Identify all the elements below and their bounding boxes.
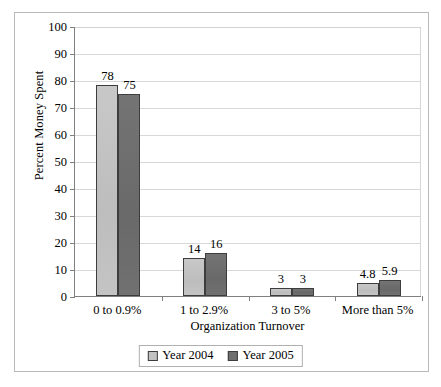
bar-value-label: 14 [188,242,201,257]
bar-group: 33 [249,27,336,296]
bar[interactable]: 5.9 [379,280,401,296]
bar[interactable]: 4.8 [357,283,379,296]
legend-item[interactable]: Year 2005 [228,348,294,363]
bar[interactable]: 14 [183,258,205,296]
bar-group-bars: 7875 [75,27,162,296]
bar[interactable]: 75 [118,94,140,297]
y-axis-tick-label: 10 [55,263,68,278]
legend-swatch-icon [147,351,157,361]
x-axis-category-label: 0 to 0.9% [93,303,141,318]
legend-item[interactable]: Year 2004 [147,348,213,363]
x-axis-tick [162,296,163,301]
bar-group: 1416 [162,27,249,296]
bar-value-label: 78 [101,69,114,84]
bar-value-label: 3 [300,272,306,287]
y-axis-tick-label: 30 [55,209,68,224]
bar[interactable]: 3 [270,288,292,296]
y-axis-tick-label: 50 [55,155,68,170]
bar-value-label: 4.8 [360,267,376,282]
bar[interactable]: 78 [96,85,118,296]
legend-label: Year 2004 [162,348,213,363]
x-axis-title: Organization Turnover [74,319,421,334]
x-axis-tick [335,296,336,301]
chart-legend: Year 2004Year 2005 [138,345,302,367]
legend-swatch-icon [228,351,238,361]
y-axis-tick-label: 90 [55,47,68,62]
x-axis-tick [249,296,250,301]
y-axis-tick-label: 100 [48,20,67,35]
y-axis-tick [70,297,75,298]
legend-label: Year 2005 [243,348,294,363]
x-axis-category-label: 3 to 5% [271,303,310,318]
y-axis-title: Percent Money Spent [32,26,47,226]
bar-value-label: 3 [278,272,284,287]
bar-group-bars: 4.85.9 [335,27,422,296]
y-axis-tick-label: 70 [55,101,68,116]
bar-value-label: 5.9 [382,264,398,279]
chart-figure: Percent Money Spent 10090807060504030201… [0,0,441,387]
y-axis-tick-label: 40 [55,182,68,197]
y-axis-tick-label: 80 [55,74,68,89]
x-axis-category-label: 1 to 2.9% [180,303,228,318]
bar[interactable]: 3 [292,288,314,296]
y-axis-tick-label: 60 [55,128,68,143]
bar-value-label: 75 [123,78,136,93]
y-axis-tick-label: 0 [61,290,67,305]
bar-group: 7875 [75,27,162,296]
bar-group-bars: 1416 [162,27,249,296]
bar[interactable]: 16 [205,253,227,296]
bar-group-bars: 33 [249,27,336,296]
bar-group: 4.85.9 [335,27,422,296]
bar-value-label: 16 [210,237,223,252]
x-axis-category-label: More than 5% [342,303,414,318]
x-axis-tick [422,296,423,301]
y-axis-tick-label: 20 [55,236,68,251]
plot-area: 100908070605040302010078751416334.85.9 [74,27,421,297]
